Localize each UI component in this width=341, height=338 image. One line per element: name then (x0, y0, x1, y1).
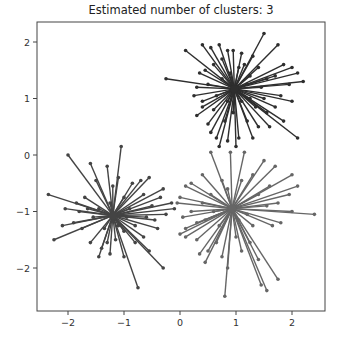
data-point (97, 255, 101, 259)
scatter-chart: Estimated number of clusters: 3 −2−1012 … (0, 0, 341, 338)
data-point (83, 196, 87, 200)
data-point (231, 111, 235, 115)
data-point (296, 136, 300, 140)
data-point (206, 122, 210, 126)
data-point (131, 181, 135, 185)
data-point (209, 46, 213, 50)
data-point (223, 119, 227, 123)
data-point (175, 201, 179, 205)
data-point (164, 213, 168, 217)
data-point (259, 85, 263, 89)
data-point (240, 249, 244, 253)
data-point (184, 227, 188, 231)
data-point (206, 83, 210, 87)
data-point (273, 105, 277, 109)
data-point (215, 241, 219, 245)
data-point (296, 184, 300, 188)
data-point (229, 71, 233, 75)
data-point (195, 114, 199, 118)
data-point (226, 139, 230, 143)
data-point (139, 179, 143, 183)
data-point (245, 119, 249, 123)
data-point (111, 184, 115, 188)
y-tick-label: −2 (16, 263, 30, 274)
data-point (248, 241, 252, 245)
data-point (245, 83, 249, 87)
data-point (164, 77, 168, 81)
data-point (276, 278, 280, 282)
data-point (257, 66, 261, 70)
data-point (150, 204, 154, 208)
data-point (66, 153, 70, 157)
data-point (234, 145, 238, 149)
data-point (265, 204, 269, 208)
data-point (108, 252, 112, 256)
data-point (136, 286, 140, 290)
data-point (184, 49, 188, 53)
data-point (122, 255, 126, 259)
data-point (61, 224, 65, 228)
data-point (273, 74, 277, 78)
data-point (265, 77, 269, 81)
data-point (142, 193, 146, 197)
data-point (105, 241, 109, 245)
cluster-2 (175, 150, 316, 298)
data-point (259, 283, 263, 287)
data-point (248, 97, 252, 101)
data-point (276, 201, 280, 205)
data-point (257, 125, 261, 129)
data-point (133, 241, 137, 245)
data-point (75, 201, 79, 205)
data-point (251, 54, 255, 58)
data-point (47, 193, 51, 197)
data-point (262, 159, 266, 163)
data-point (125, 215, 129, 219)
data-point (195, 85, 199, 89)
data-point (161, 187, 165, 191)
data-point (251, 173, 255, 177)
data-point (226, 100, 230, 104)
data-point (97, 207, 101, 211)
data-point (240, 179, 244, 183)
data-point (189, 181, 193, 185)
data-point (248, 74, 252, 78)
data-point (178, 196, 182, 200)
data-point (122, 229, 126, 233)
data-point (245, 213, 249, 217)
data-point (273, 165, 277, 169)
data-point (262, 32, 266, 36)
data-point (265, 111, 269, 115)
data-point (296, 71, 300, 75)
y-tick-label: −1 (16, 206, 30, 217)
data-point (257, 193, 261, 197)
data-point (203, 261, 207, 265)
data-point (201, 100, 205, 104)
cluster-center (109, 211, 117, 219)
data-point (254, 105, 258, 109)
data-point (159, 196, 163, 200)
data-point (198, 71, 202, 75)
data-point (262, 97, 266, 101)
data-point (119, 145, 123, 149)
data-point (268, 125, 272, 129)
data-point (203, 218, 207, 222)
data-point (287, 83, 291, 87)
data-point (220, 57, 224, 61)
x-tick-label: 1 (233, 317, 239, 328)
data-point (276, 43, 280, 47)
data-point (215, 94, 219, 98)
data-point (226, 266, 230, 270)
cluster-center (228, 205, 236, 213)
data-point (153, 218, 157, 222)
data-point (201, 201, 205, 205)
data-point (145, 215, 149, 219)
data-point (122, 196, 126, 200)
y-tick-label: 0 (24, 150, 30, 161)
data-point (268, 184, 272, 188)
data-point (77, 210, 81, 214)
data-point (229, 150, 233, 154)
x-axis: −2−1012 (61, 311, 295, 328)
data-point (226, 49, 230, 53)
data-point (290, 66, 294, 70)
data-point (142, 235, 146, 239)
